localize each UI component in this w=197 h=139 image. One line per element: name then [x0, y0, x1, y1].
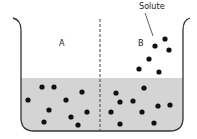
solute-particle — [63, 97, 68, 102]
solute-particle — [166, 47, 171, 52]
solute-particle — [155, 103, 160, 108]
solute-particle — [141, 85, 146, 90]
solute-particle — [75, 122, 80, 127]
label-b: B — [138, 38, 144, 48]
solute-particle — [25, 97, 30, 102]
solute-particle — [117, 99, 122, 104]
solute-particle — [51, 84, 56, 89]
solute-particle — [79, 89, 84, 94]
solute-particle — [139, 109, 144, 114]
solute-particle — [39, 84, 44, 89]
solute-particle — [162, 36, 167, 41]
solute-pointer — [145, 13, 153, 36]
solute-particle — [130, 98, 135, 103]
label-solute: Solute — [139, 1, 165, 11]
solute-particle — [117, 121, 122, 126]
solute-particle — [151, 120, 156, 125]
osmosis-diagram: A B Solute — [0, 0, 197, 139]
solute-particle — [84, 109, 89, 114]
solute-particle — [156, 69, 161, 74]
solute-particle — [152, 43, 157, 48]
solute-particle — [167, 102, 172, 107]
solute-particle — [113, 90, 118, 95]
solute-particle — [68, 114, 73, 119]
solute-particle — [108, 109, 113, 114]
solute-particle — [46, 107, 51, 112]
solute-particle — [41, 119, 46, 124]
solute-particle — [136, 66, 141, 71]
solute-particle — [146, 56, 151, 61]
label-a: A — [59, 38, 65, 48]
